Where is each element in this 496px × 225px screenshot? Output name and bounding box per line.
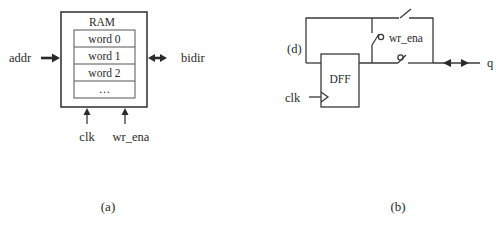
clk-label-b: clk — [285, 91, 301, 105]
addr-label: addr — [9, 51, 32, 65]
figure-canvas: RAM word 0 word 1 word 2 … addr bidir cl… — [0, 0, 496, 225]
q-label: q — [487, 56, 494, 70]
ram-row-word-0: word 0 — [88, 33, 121, 45]
feedback-wire — [306, 18, 399, 63]
arrow-right-icon — [160, 54, 167, 62]
bidir-label: bidir — [181, 51, 205, 65]
arrow-up-icon — [84, 108, 91, 115]
arrow-left-icon — [443, 59, 451, 67]
switch-top-blade — [400, 9, 411, 18]
caption-a: (a) — [101, 199, 115, 214]
d-label: (d) — [287, 42, 302, 56]
ram-row-word-1: word 1 — [88, 50, 121, 62]
arrow-up-icon — [122, 108, 129, 115]
dff-label: DFF — [329, 73, 350, 85]
ram-word-table: word 0 word 1 word 2 … — [74, 30, 135, 98]
switch-mid-blade — [372, 34, 379, 45]
clk-label: clk — [79, 130, 95, 144]
arrow-right-icon — [52, 54, 60, 63]
ram-title: RAM — [89, 16, 115, 28]
wr-ena-label: wr_ena — [113, 130, 150, 144]
ram-row-word-2: word 2 — [88, 67, 121, 79]
switch-bottom-bubble — [398, 55, 403, 60]
arrow-left-icon — [148, 54, 155, 62]
dff-cell-diagram: wr_ena (d) DFF clk q (b) — [285, 9, 494, 214]
wr-ena-label: wr_ena — [389, 32, 423, 44]
ram-row-ellipsis: … — [99, 83, 111, 95]
clock-triangle-icon — [321, 92, 328, 102]
switch-mid-bubble — [378, 34, 383, 39]
caption-b: (b) — [390, 199, 405, 214]
ram-diagram: RAM word 0 word 1 word 2 … addr bidir cl… — [9, 12, 205, 214]
arrow-right-icon — [461, 59, 469, 67]
